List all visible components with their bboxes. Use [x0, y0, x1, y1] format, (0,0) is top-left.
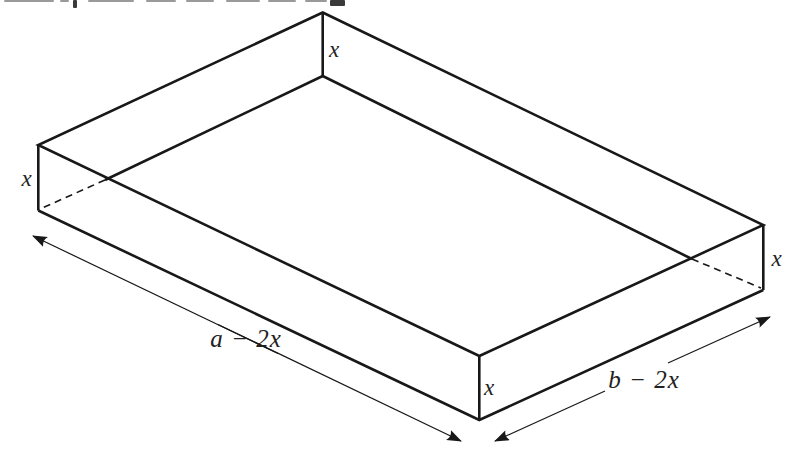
floor-edge-back-right [323, 76, 692, 259]
label-height-back: x [328, 37, 340, 62]
open-box-diagram: x x x x a − 2x b − 2x [0, 0, 790, 465]
hidden-floor-edge-left [40, 180, 105, 209]
label-base-length: a − 2x [210, 325, 281, 352]
label-height-left: x [20, 166, 32, 191]
label-height-right: x [770, 246, 782, 271]
floor-edge-back-left [105, 76, 323, 180]
box-top-rim [38, 13, 763, 357]
label-base-width: b − 2x [608, 366, 679, 393]
diagram-canvas: x x x x a − 2x b − 2x [0, 0, 790, 465]
label-height-front: x [483, 375, 495, 400]
hidden-floor-edge-right [692, 259, 761, 288]
